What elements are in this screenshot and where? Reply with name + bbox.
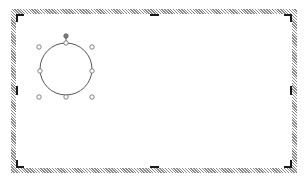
resize-handle-right[interactable]: [90, 69, 94, 73]
resize-handle-bottom-right[interactable]: [90, 95, 94, 99]
resize-handle-top-left[interactable]: [37, 45, 41, 49]
shape-layer: [0, 0, 308, 181]
rotation-handle[interactable]: [64, 34, 68, 38]
circle-shape[interactable]: [40, 43, 92, 95]
resize-handle-bottom-left[interactable]: [37, 95, 41, 99]
resize-handle-bottom[interactable]: [64, 95, 68, 99]
resize-handle-top-right[interactable]: [90, 45, 94, 49]
resize-handle-left[interactable]: [38, 69, 42, 73]
resize-handle-top[interactable]: [64, 41, 68, 45]
